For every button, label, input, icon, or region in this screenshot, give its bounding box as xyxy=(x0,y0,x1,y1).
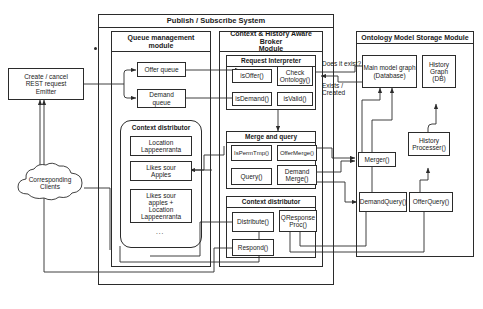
node-is-demand[interactable]: isDemand() xyxy=(232,92,272,106)
node-history-graph[interactable]: History Graph (DB) xyxy=(422,55,456,88)
node-respond[interactable]: Respond() xyxy=(232,239,274,256)
is-perm-tmp-label: IsPermTmp() xyxy=(234,150,269,156)
queue-context-item-label: Location Lappeenranta xyxy=(141,139,181,153)
node-rest-request-emitter[interactable]: Create / cancel REST request Emitter xyxy=(8,68,84,100)
node-check-ontology[interactable]: Check Ontology() xyxy=(277,66,313,86)
distribute-label: Distribute() xyxy=(237,218,269,225)
queue-context-ellipsis: ... xyxy=(156,228,164,235)
node-history-processer[interactable]: History Processer() xyxy=(408,132,450,156)
list-item[interactable]: Location Lappeenranta xyxy=(130,136,192,156)
node-query[interactable]: Query() xyxy=(231,168,272,185)
offer-merge-label: OfferMerge() xyxy=(280,150,314,156)
is-offer-label: isOffer() xyxy=(240,72,263,79)
offer-query-label: OfferQuery() xyxy=(413,198,449,205)
node-offer-query[interactable]: OfferQuery() xyxy=(409,192,453,212)
broker-module-title: Context & History Aware Broker Module xyxy=(220,32,322,52)
diagram-canvas: Create / cancel REST request Emitter Cor… xyxy=(0,0,483,309)
list-item[interactable]: Likes sour Apples xyxy=(130,161,192,181)
check-ontology-label: Check Ontology() xyxy=(280,69,310,83)
node-demand-query[interactable]: DemandQuery() xyxy=(359,192,407,212)
node-is-perm-tmp[interactable]: IsPermTmp() xyxy=(231,145,272,161)
queue-context-distributor-title: Context distributor xyxy=(121,121,201,134)
node-qresponse-proc[interactable]: QResponse Proc() xyxy=(279,210,317,232)
node-corresponding-clients[interactable]: Corresponding Clients xyxy=(12,162,88,204)
merger-label: Merger() xyxy=(365,156,390,163)
query-label: Query() xyxy=(240,173,262,180)
edge-label-does-it-exist: Does it exist? xyxy=(322,60,361,67)
queue-management-module-title: Queue management module xyxy=(112,32,210,52)
is-valid-label: isValid() xyxy=(284,95,307,102)
list-item[interactable]: Likes sour apples + Location Lappeenrant… xyxy=(130,189,192,223)
node-demand-queue[interactable]: Demand queue xyxy=(137,89,186,108)
respond-label: Respond() xyxy=(238,244,268,251)
queue-context-item-label: Likes sour apples + Location Lappeenrant… xyxy=(141,192,181,220)
node-demand-merge[interactable]: Demand Merge() xyxy=(277,165,317,185)
node-main-model-graph[interactable]: Main model graph (Database) xyxy=(362,55,417,88)
queue-context-item-label: Likes sour Apples xyxy=(146,164,176,178)
node-is-valid[interactable]: isValid() xyxy=(277,92,313,106)
history-graph-label: History Graph (DB) xyxy=(429,61,449,82)
main-model-graph-label: Main model graph (Database) xyxy=(363,64,415,78)
merge-and-query-title: Merge and query xyxy=(227,132,315,143)
edge-label-exists-created: Exists / Created xyxy=(322,82,345,97)
node-offer-queue[interactable]: Offer queue xyxy=(137,62,186,77)
node-is-offer[interactable]: isOffer() xyxy=(232,69,272,83)
qresponse-proc-label: QResponse Proc() xyxy=(281,214,315,228)
node-distribute[interactable]: Distribute() xyxy=(232,212,274,232)
is-demand-label: isDemand() xyxy=(235,95,269,102)
node-merger[interactable]: Merger() xyxy=(358,152,396,167)
demand-query-label: DemandQuery() xyxy=(360,198,407,205)
rest-request-emitter-label: Create / cancel REST request Emitter xyxy=(24,73,68,94)
corresponding-clients-label: Corresponding Clients xyxy=(12,162,88,204)
demand-merge-label: Demand Merge() xyxy=(285,168,310,182)
offer-queue-label: Offer queue xyxy=(144,66,178,73)
demand-queue-label: Demand queue xyxy=(149,91,174,105)
ontology-module-title: Ontology Model Storage Module xyxy=(357,32,473,44)
marker-dot xyxy=(94,47,97,50)
broker-context-distributor-title: Context distributor xyxy=(227,197,315,208)
publish-subscribe-system-title: Publish / Subscribe System xyxy=(99,15,333,28)
history-processer-label: History Processer() xyxy=(412,137,446,151)
node-offer-merge[interactable]: OfferMerge() xyxy=(277,145,317,161)
